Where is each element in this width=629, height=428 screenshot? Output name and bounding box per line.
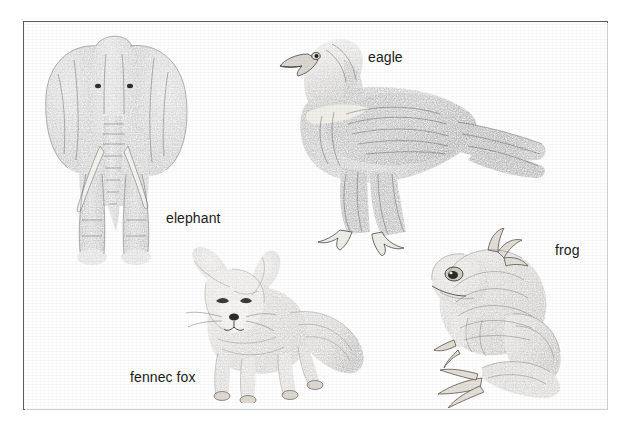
label-eagle: eagle bbox=[368, 50, 403, 64]
label-fennec-fox: fennec fox bbox=[130, 370, 196, 384]
label-frog: frog bbox=[555, 243, 580, 257]
elephant-drawing bbox=[34, 24, 194, 274]
elephant-figure bbox=[34, 24, 194, 274]
fennec-fox-figure bbox=[172, 243, 382, 403]
eagle-drawing bbox=[262, 26, 548, 256]
eagle-figure bbox=[262, 26, 548, 256]
fennec-fox-drawing bbox=[172, 243, 382, 403]
illustration-plate: elephant eagle fennec fox frog bbox=[0, 0, 629, 428]
label-elephant: elephant bbox=[166, 211, 221, 225]
